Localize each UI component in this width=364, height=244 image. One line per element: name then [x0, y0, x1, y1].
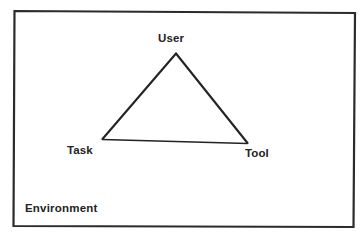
- edge-task-tool: [103, 140, 248, 144]
- node-label-task: Task: [67, 144, 93, 157]
- environment-boundary-rect: [14, 11, 356, 227]
- node-label-user: User: [158, 32, 184, 45]
- diagram-canvas: User Task Tool Environment: [0, 0, 364, 244]
- environment-label: Environment: [25, 202, 98, 215]
- edge-user-tool: [176, 54, 248, 144]
- node-label-tool: Tool: [245, 147, 269, 160]
- edge-task-user: [103, 54, 177, 140]
